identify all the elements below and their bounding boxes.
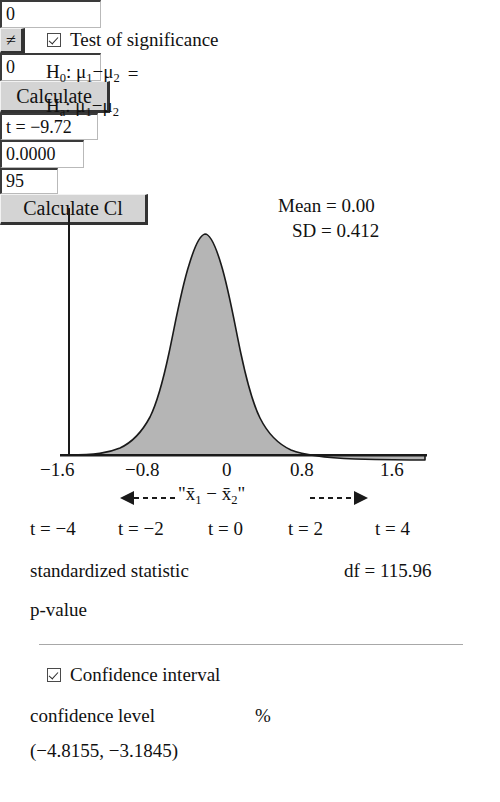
arrow-right-head bbox=[354, 491, 368, 505]
p-value-value: 0.0000 bbox=[6, 144, 56, 165]
alt-hypothesis-operator: ≠ bbox=[6, 30, 16, 51]
test-of-significance-checkbox-row[interactable]: Test of significance bbox=[47, 30, 219, 49]
x-tick-label-3: 0.8 bbox=[290, 459, 314, 481]
null-hypothesis-value: 0 bbox=[6, 4, 15, 25]
normal-curve-area bbox=[69, 234, 425, 460]
null-hypothesis-row: H0: μ1−μ2 = bbox=[46, 62, 138, 84]
test-of-significance-label: Test of significance bbox=[70, 30, 219, 49]
alt-hypothesis-row: Ha: μ1−μ2 bbox=[46, 96, 119, 118]
section-divider bbox=[39, 644, 463, 645]
range-arrow-svg bbox=[0, 484, 500, 514]
alt-hypothesis-value: 0 bbox=[6, 57, 15, 78]
x-axis-range-arrow: "x̄1 − x̄2" bbox=[0, 484, 500, 514]
t-axis-tick-labels: t = −4 t = −2 t = 0 t = 2 t = 4 bbox=[0, 518, 500, 544]
t-tick-label-2: t = 0 bbox=[208, 518, 243, 540]
null-hypothesis-operator: = bbox=[128, 64, 139, 83]
standardized-statistic-value: t = −9.72 bbox=[6, 117, 72, 138]
confidence-interval-checkbox-row[interactable]: Confidence interval bbox=[47, 665, 220, 684]
distribution-curve-svg bbox=[0, 185, 500, 475]
confidence-interval-label: Confidence interval bbox=[70, 665, 220, 684]
t-tick-label-0: t = −4 bbox=[30, 518, 76, 540]
null-hypothesis-expression: H0: μ1−μ2 bbox=[46, 62, 120, 84]
p-value-output: 0.0000 bbox=[0, 140, 84, 168]
t-tick-label-1: t = −2 bbox=[118, 518, 164, 540]
p-value-label: p-value bbox=[30, 600, 87, 619]
alt-hypothesis-expression: Ha: μ1−μ2 bbox=[46, 96, 119, 118]
percent-symbol: % bbox=[255, 706, 271, 725]
null-hypothesis-value-input[interactable]: 0 bbox=[0, 0, 101, 28]
confidence-interval-result: (−4.8155, −3.1845) bbox=[30, 741, 178, 760]
arrow-left-head bbox=[120, 491, 134, 505]
alt-hypothesis-operator-dropdown[interactable]: ≠ bbox=[0, 28, 25, 53]
standardized-statistic-label: standardized statistic bbox=[30, 561, 189, 580]
x-tick-label-2: 0 bbox=[222, 459, 232, 481]
t-tick-label-4: t = 4 bbox=[375, 518, 410, 540]
x-tick-label-1: −0.8 bbox=[125, 459, 159, 481]
t-tick-label-3: t = 2 bbox=[288, 518, 323, 540]
x-tick-label-4: 1.6 bbox=[380, 459, 404, 481]
x-axis-tick-labels: −1.6 −0.8 0 0.8 1.6 bbox=[0, 459, 500, 485]
confidence-interval-checkbox[interactable] bbox=[47, 668, 61, 682]
x-axis-label-expression: "x̄1 − x̄2" bbox=[178, 483, 245, 508]
test-of-significance-checkbox[interactable] bbox=[47, 33, 61, 47]
confidence-level-label: confidence level bbox=[30, 706, 155, 725]
degrees-of-freedom-label: df = 115.96 bbox=[344, 561, 432, 580]
applet-window: Test of significance H0: μ1−μ2 = 0 Ha: μ… bbox=[0, 0, 500, 802]
distribution-plot bbox=[0, 185, 500, 475]
x-tick-label-0: −1.6 bbox=[40, 459, 74, 481]
